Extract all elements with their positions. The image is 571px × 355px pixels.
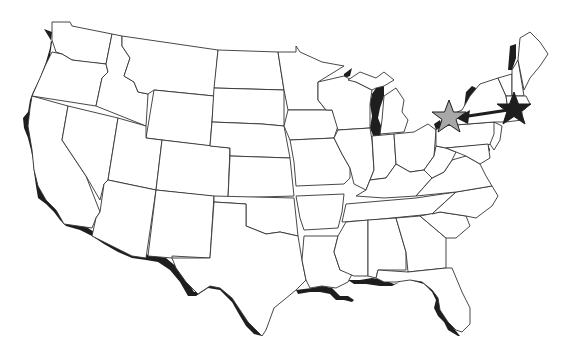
- us-map: [0, 0, 571, 355]
- state-north-dakota: [214, 50, 284, 90]
- state-wyoming: [146, 90, 214, 146]
- state-colorado: [156, 140, 230, 198]
- state-florida: [376, 268, 470, 332]
- state-montana: [122, 36, 218, 96]
- states: [28, 22, 548, 336]
- state-arkansas: [296, 194, 344, 230]
- state-maine: [518, 32, 548, 90]
- state-kansas: [228, 156, 294, 198]
- state-iowa: [284, 110, 338, 140]
- state-new-mexico: [148, 190, 214, 258]
- state-south-dakota: [212, 88, 284, 126]
- gulf-coast-shadow: [296, 286, 354, 302]
- state-michigan: [380, 88, 408, 134]
- state-mississippi: [334, 220, 368, 276]
